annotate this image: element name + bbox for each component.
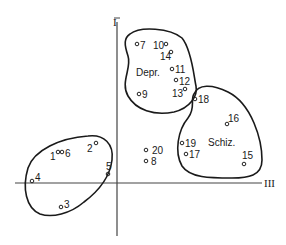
group-label-schiz: Schiz. [208,137,235,148]
point-marker [59,205,63,209]
point-label: 9 [142,89,148,100]
point-label: 5 [106,161,112,172]
point-label: 8 [151,156,157,167]
point-marker [144,159,148,163]
cluster-outline-schizophrenia [178,86,262,178]
point-label: 11 [175,64,186,75]
point-label: 13 [172,88,184,99]
point-label: 12 [179,76,191,87]
point-marker [184,152,188,156]
cluster-diagram: I III Depr. Schiz. 1 6 2 4 5 3 7 10 14 1… [0,0,286,245]
data-points: 1 6 2 4 5 3 7 10 14 11 12 13 9 18 16 19 [30,40,253,210]
point-marker [180,141,184,145]
point-label: 1 [50,151,56,162]
vertical-axis-label: I [113,16,117,28]
point-label: 17 [189,149,201,160]
point-label: 14 [160,51,172,62]
point-marker [183,87,187,91]
horizontal-axis-label: III [264,177,275,189]
point-label: 19 [185,138,197,149]
point-label: 15 [242,150,254,161]
point-label: 6 [65,148,71,159]
point-marker [60,150,64,154]
point-marker [174,78,178,82]
point-label: 10 [153,40,165,51]
point-marker [135,42,139,46]
point-marker [170,67,174,71]
point-label: 2 [87,143,93,154]
group-label-depr: Depr. [136,67,160,78]
point-label: 20 [152,145,164,156]
point-label: 16 [228,113,240,124]
point-marker [30,179,34,183]
point-marker [137,92,141,96]
point-label: 7 [140,40,146,51]
point-marker [164,42,168,46]
point-marker [94,141,98,145]
point-marker [56,150,60,154]
point-marker [144,148,148,152]
point-marker [242,162,246,166]
point-label: 4 [35,172,41,183]
point-label: 3 [64,199,70,210]
point-label: 18 [198,94,210,105]
